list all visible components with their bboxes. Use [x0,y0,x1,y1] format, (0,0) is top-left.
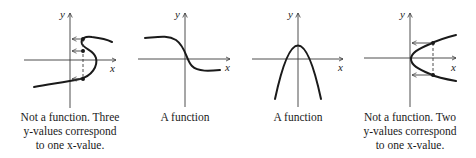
intersection-point [81,37,85,41]
y-axis-label: y [174,8,180,20]
panel-2-graph: y x [138,8,230,107]
decreasing-curve [145,37,220,71]
panel-4-caption: Not a function. Two y-values correspond … [344,110,476,152]
caption-line: A function [243,110,353,124]
caption-line: Not a function. Three [4,110,136,124]
panel-1-graph: y x [24,8,116,108]
x-axis-label: x [450,61,456,73]
panel-3-caption: A function [243,110,353,124]
y-axis-label: y [287,8,293,20]
intersection-point [81,77,85,81]
x-axis-label: x [224,61,230,73]
intersection-point [81,49,85,53]
intersection-point [431,41,435,45]
panel-2-caption: A function [130,110,240,124]
x-axis-label: x [109,62,115,74]
panel-1-caption: Not a function. Three y-values correspon… [4,110,136,152]
panel-4-graph: y x [364,8,456,107]
caption-line: to one x-value. [344,138,476,152]
caption-line: Not a function. Two [344,110,476,124]
caption-line: y-values correspond [344,124,476,138]
s-curve [34,37,112,87]
x-axis-label: x [337,61,343,73]
intersection-point [431,73,435,77]
y-axis-label: y [59,8,65,20]
y-axis-label: y [399,8,405,20]
caption-line: to one x-value. [4,138,136,152]
panel-3-graph: y x [252,8,343,107]
caption-line: y-values correspond [4,124,136,138]
caption-line: A function [130,110,240,124]
